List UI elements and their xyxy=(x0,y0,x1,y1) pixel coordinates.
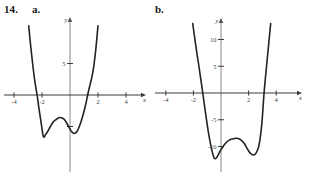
y-tick-label: 5 xyxy=(213,63,216,70)
x-axis-label: x xyxy=(142,96,146,103)
x-tick-label: -2 xyxy=(39,98,44,105)
graph-b: yx-4-224105-5-10 xyxy=(150,0,309,181)
y-axis-arrow xyxy=(68,17,73,22)
curve-path xyxy=(29,26,98,137)
x-axis-label: x xyxy=(298,94,302,101)
x-tick-label: -2 xyxy=(191,96,196,103)
x-tick-label: 4 xyxy=(124,98,128,105)
y-axis-label: y xyxy=(215,17,219,24)
x-tick-label: 2 xyxy=(247,96,250,103)
x-tick-label: -4 xyxy=(163,96,169,103)
curve-path xyxy=(193,23,271,158)
x-tick-label: -4 xyxy=(11,98,17,105)
graph-a: yx-4-2245 xyxy=(0,0,152,181)
y-tick-label: 10 xyxy=(210,36,217,43)
y-tick-label: 5 xyxy=(62,60,65,67)
y-axis-arrow xyxy=(219,18,224,23)
x-tick-label: 4 xyxy=(275,96,279,103)
y-axis-label: y xyxy=(64,16,68,23)
x-tick-label: 2 xyxy=(96,98,99,105)
y-tick-label: -5 xyxy=(211,116,216,123)
graph-a-canvas: yx-4-2245 xyxy=(0,0,152,181)
graph-b-canvas: yx-4-224105-5-10 xyxy=(150,0,309,181)
exercise-page: 14. a. b. yx-4-2245 yx-4-224105-5-10 xyxy=(0,0,309,181)
